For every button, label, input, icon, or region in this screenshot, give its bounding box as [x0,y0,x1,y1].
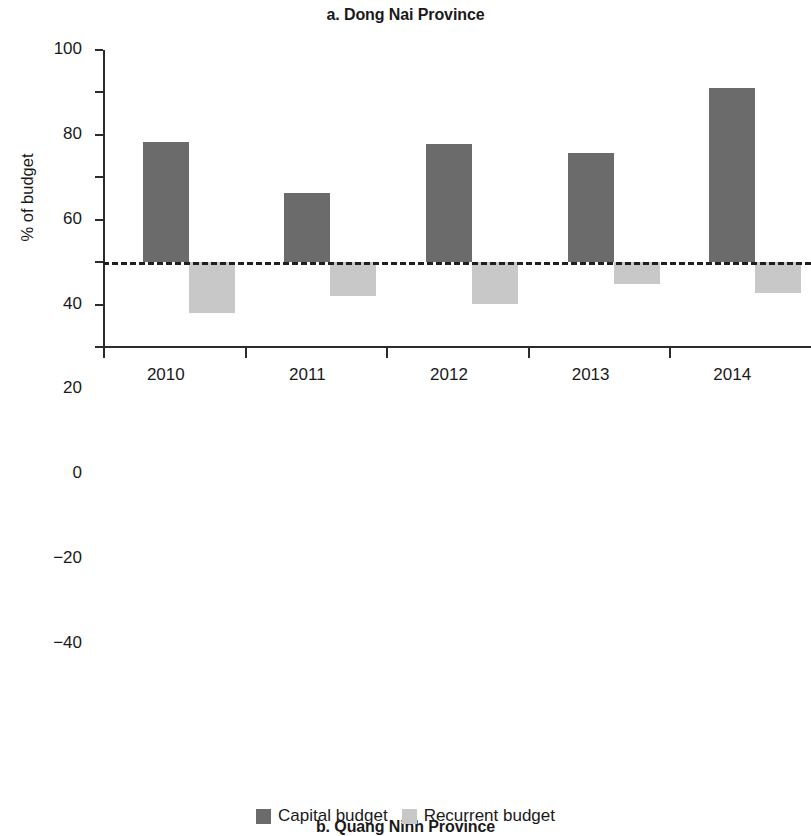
bar-dong-nai-2011-recurrent [330,262,376,296]
y-tick-label-dong-nai-3: 20 [63,378,82,398]
y-tick-dong-nai-6: 80 [95,91,103,93]
y-tick-dong-nai-7: 100 [95,49,103,51]
x-tick-dong-nai-origin [103,347,105,358]
bar-dong-nai-2010-recurrent [189,262,235,313]
bar-dong-nai-2014-recurrent [755,262,801,293]
y-tick-dong-nai-1: −20 [95,304,103,306]
bar-dong-nai-2011-capital [284,193,330,262]
x-tick-dong-nai-3 [528,347,530,358]
y-tick-dong-nai-2: 0 [95,261,103,263]
x-axis-line-dong-nai [103,346,811,348]
bar-dong-nai-2012-capital [426,144,472,262]
x-tick-dong-nai-1 [245,347,247,358]
chart-title-dong-nai: a. Dong Nai Province [0,6,811,24]
zero-reference-line-dong-nai [103,262,811,265]
bar-dong-nai-2010-capital [143,142,189,262]
bar-dong-nai-2013-capital [568,153,614,262]
legend-swatch-recurrent-icon [402,809,417,824]
legend-item-capital[interactable]: Capital budget [256,806,388,826]
x-axis-dong-nai: 20102011201220132014 [103,347,811,387]
x-tick-label-dong-nai-2014: 2014 [713,365,751,385]
chart-panel-dong-nai: a. Dong Nai Province % of budget −40−200… [0,0,811,400]
y-tick-dong-nai-4: 40 [95,176,103,178]
y-tick-dong-nai-5: 60 [95,134,103,136]
y-tick-label-dong-nai-7: 100 [54,39,82,59]
y-tick-label-dong-nai-6: 80 [63,124,82,144]
y-axis-line-dong-nai [103,50,105,347]
legend-label-recurrent: Recurrent budget [424,806,555,826]
bar-dong-nai-2013-recurrent [614,262,660,284]
legend: Capital budgetRecurrent budget [0,806,811,826]
x-tick-label-dong-nai-2013: 2013 [572,365,610,385]
y-axis-label-dong-nai: % of budget [18,138,37,258]
bar-dong-nai-2014-capital [709,88,755,262]
y-tick-label-dong-nai-4: 40 [63,294,82,314]
chart-panel-quang-ninh: b. Quang Ninh Province % of budget 01020… [0,400,811,836]
bar-dong-nai-2012-recurrent [472,262,518,304]
x-tick-label-dong-nai-2011: 2011 [289,365,326,385]
figure-root: a. Dong Nai Province % of budget −40−200… [0,0,811,836]
legend-swatch-capital-icon [256,809,271,824]
legend-item-recurrent[interactable]: Recurrent budget [402,806,555,826]
x-tick-dong-nai-4 [669,347,671,358]
y-tick-label-dong-nai-5: 60 [63,209,82,229]
plot-area-dong-nai: −40−20020406080100 20102011201220132014 [103,50,811,347]
x-tick-label-dong-nai-2012: 2012 [430,365,468,385]
y-tick-dong-nai-3: 20 [95,219,103,221]
legend-label-capital: Capital budget [278,806,388,826]
x-tick-label-dong-nai-2010: 2010 [147,365,185,385]
x-tick-dong-nai-2 [386,347,388,358]
y-tick-dong-nai-0: −40 [95,346,103,348]
